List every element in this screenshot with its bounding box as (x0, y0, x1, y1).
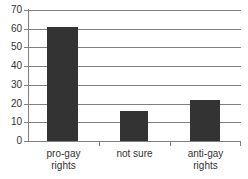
x-axis-category-label: pro-gay rights (28, 148, 99, 172)
y-tick-label: 20 (0, 99, 22, 109)
x-axis-category-label: anti-gay rights (170, 148, 241, 172)
y-tick-label: 70 (0, 5, 22, 15)
bars (28, 10, 241, 141)
x-tick-mark (99, 141, 100, 146)
x-tick-mark (170, 141, 171, 146)
y-tick-mark (24, 66, 29, 67)
bar-chart: 0 10 20 30 40 50 60 70 pro-gay rights no… (0, 0, 248, 179)
y-tick-label: 0 (0, 136, 22, 146)
bar-not-sure (120, 111, 148, 141)
bar-anti-gay-rights (190, 100, 220, 141)
y-tick-mark (24, 122, 29, 123)
y-tick-label: 40 (0, 61, 22, 71)
y-tick-mark (24, 10, 29, 11)
y-tick-label: 60 (0, 24, 22, 34)
x-axis-line (28, 141, 241, 142)
bar-pro-gay-rights (47, 27, 78, 141)
y-tick-mark (24, 29, 29, 30)
y-tick-mark (24, 104, 29, 105)
y-tick-mark (24, 47, 29, 48)
y-tick-mark (24, 141, 29, 142)
y-tick-label: 10 (0, 117, 22, 127)
y-tick-label: 50 (0, 42, 22, 52)
y-tick-mark (24, 85, 29, 86)
x-tick-mark (240, 141, 241, 146)
x-axis-category-label: not sure (99, 148, 170, 160)
y-tick-label: 30 (0, 80, 22, 90)
